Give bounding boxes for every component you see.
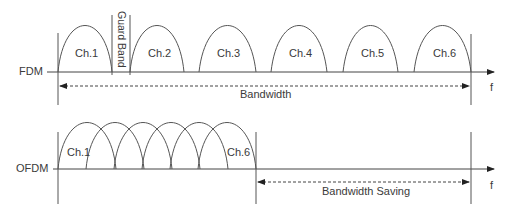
- ofdm-channel-1-label: Ch.1: [67, 147, 90, 158]
- bandwidth-saving-label: Bandwidth Saving: [322, 186, 410, 197]
- guard-band-label: Guard Band: [117, 11, 128, 68]
- fdm-channel-4-label: Ch.4: [289, 48, 312, 59]
- diagram-graphics: [0, 0, 510, 217]
- bandwidth-label: Bandwidth: [240, 89, 291, 100]
- fdm-channel-1-label: Ch.1: [75, 48, 98, 59]
- fdm-channel-3-label: Ch.3: [217, 48, 240, 59]
- fdm-channel-5-label: Ch.5: [361, 48, 384, 59]
- fdm-channel-2-label: Ch.2: [148, 48, 171, 59]
- fdm-frequency-axis-label: f: [490, 82, 493, 93]
- ofdm-section: [53, 123, 494, 205]
- fdm-label: FDM: [19, 66, 43, 77]
- ofdm-label: OFDM: [16, 163, 48, 174]
- fdm-vs-ofdm-diagram: FDM Ch.1 Ch.2 Ch.3 Ch.4 Ch.5 Ch.6 Guard …: [0, 0, 510, 217]
- ofdm-channel-6-label: Ch.6: [227, 147, 250, 158]
- ofdm-frequency-axis-label: f: [490, 180, 493, 191]
- fdm-channel-6-label: Ch.6: [433, 48, 456, 59]
